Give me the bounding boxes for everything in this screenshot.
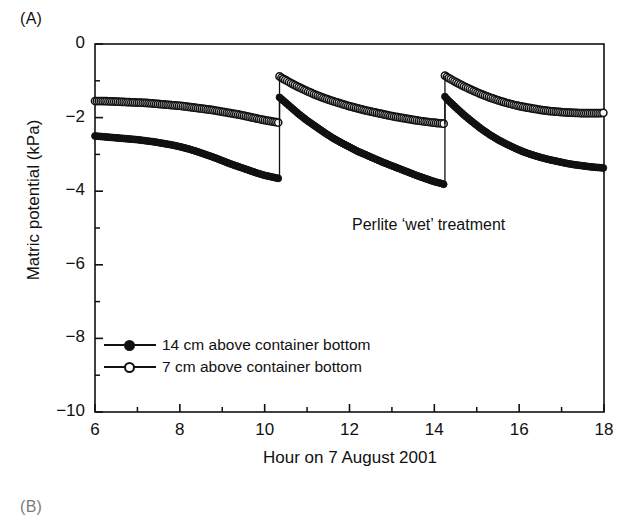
x-tick-label: 8 bbox=[157, 420, 203, 440]
y-tick-label: −8 bbox=[39, 327, 85, 347]
x-tick-label: 6 bbox=[72, 420, 118, 440]
y-tick-label: 0 bbox=[39, 33, 85, 53]
y-tick-label: −2 bbox=[39, 107, 85, 127]
x-tick-label: 14 bbox=[411, 420, 457, 440]
series-7cm bbox=[91, 72, 607, 127]
x-tick-label: 12 bbox=[327, 420, 373, 440]
y-tick-label: −6 bbox=[39, 254, 85, 274]
x-tick-label: 10 bbox=[242, 420, 288, 440]
x-tick-label: 18 bbox=[581, 420, 627, 440]
y-tick-label: −10 bbox=[39, 401, 85, 421]
y-tick-label: −4 bbox=[39, 180, 85, 200]
x-tick-label: 16 bbox=[496, 420, 542, 440]
